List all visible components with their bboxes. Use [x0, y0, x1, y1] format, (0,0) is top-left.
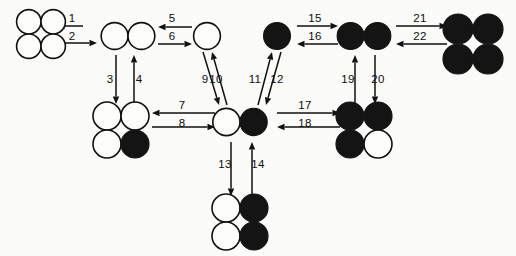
white-circle — [17, 10, 41, 34]
arrow-head — [211, 52, 217, 60]
cluster-1-white — [194, 23, 221, 50]
arrow-label-19: 19 — [341, 73, 354, 85]
black-circle — [240, 222, 268, 250]
arrow-label-9: 9 — [202, 73, 209, 85]
black-circle — [473, 44, 503, 74]
arrow-head — [277, 124, 285, 130]
arrow-head — [396, 41, 404, 47]
white-circle — [41, 10, 65, 34]
arrow-label-4: 4 — [136, 73, 143, 85]
arrow-label-18: 18 — [298, 117, 311, 129]
arrow-head — [265, 97, 271, 105]
white-circle — [212, 194, 240, 222]
arrow-label-7: 7 — [179, 99, 186, 111]
arrow-head — [331, 23, 339, 29]
arrow-label-2: 2 — [69, 30, 76, 42]
cluster-2-white-pair — [101, 23, 155, 50]
white-circle — [128, 23, 155, 50]
white-circle — [101, 23, 128, 50]
black-circle — [443, 44, 473, 74]
arrow-label-12: 12 — [270, 73, 283, 85]
arrow-head — [185, 41, 193, 47]
arrow-head — [352, 55, 358, 63]
black-circle — [336, 130, 364, 158]
arrow-head — [249, 142, 255, 150]
arrow-head — [214, 97, 220, 105]
white-circle — [93, 130, 121, 158]
black-circle — [336, 102, 364, 130]
arrow-label-15: 15 — [308, 12, 321, 24]
white-circle — [93, 102, 121, 130]
black-circle — [240, 194, 268, 222]
arrow-head — [90, 40, 98, 46]
black-circle — [337, 23, 364, 50]
cluster-4-white-square — [17, 10, 66, 59]
arrow-label-17: 17 — [298, 99, 311, 111]
black-circle — [121, 130, 149, 158]
arrow-label-6: 6 — [169, 30, 176, 42]
black-circle — [240, 108, 267, 135]
arrow-label-22: 22 — [413, 30, 426, 42]
arrow-head — [131, 55, 137, 63]
white-circle — [212, 222, 240, 250]
arrow-label-11: 11 — [249, 73, 262, 85]
cluster-white-black-pair — [213, 108, 267, 135]
arrow-label-8: 8 — [179, 117, 186, 129]
white-circle — [213, 108, 240, 135]
cluster-2-black-pair — [337, 23, 391, 50]
cluster-4-black-square — [443, 14, 503, 74]
cluster-3-black-1-white-square — [336, 102, 392, 158]
white-circle — [41, 34, 65, 58]
arrow-head — [152, 110, 160, 116]
black-circle — [264, 23, 291, 50]
arrow-3 — [113, 55, 119, 104]
arrow-head — [158, 24, 166, 30]
arrow-label-10: 10 — [209, 73, 222, 85]
black-circle — [364, 23, 391, 50]
cluster-3-white-1-black-square — [93, 102, 149, 158]
black-circle — [473, 14, 503, 44]
arrow-label-3: 3 — [107, 73, 114, 85]
arrow-label-13: 13 — [218, 158, 231, 170]
white-circle — [17, 34, 41, 58]
state-transition-diagram: 12345678910111213141516171819202122 — [0, 0, 516, 256]
arrow-label-1: 1 — [69, 12, 76, 24]
arrow-head — [297, 41, 305, 47]
black-circle — [443, 14, 473, 44]
arrow-label-16: 16 — [308, 30, 321, 42]
white-circle — [364, 130, 392, 158]
white-circle — [121, 102, 149, 130]
white-circle — [194, 23, 221, 50]
arrow-label-5: 5 — [169, 12, 176, 24]
arrow-label-14: 14 — [251, 158, 265, 170]
cluster-1-black — [264, 23, 291, 50]
diagram-canvas: 12345678910111213141516171819202122 — [0, 0, 516, 256]
black-circle — [364, 102, 392, 130]
cluster-2-white-2-black-square — [212, 194, 268, 250]
arrow-head — [267, 52, 273, 60]
arrow-label-20: 20 — [371, 73, 384, 85]
arrow-label-21: 21 — [413, 12, 426, 24]
